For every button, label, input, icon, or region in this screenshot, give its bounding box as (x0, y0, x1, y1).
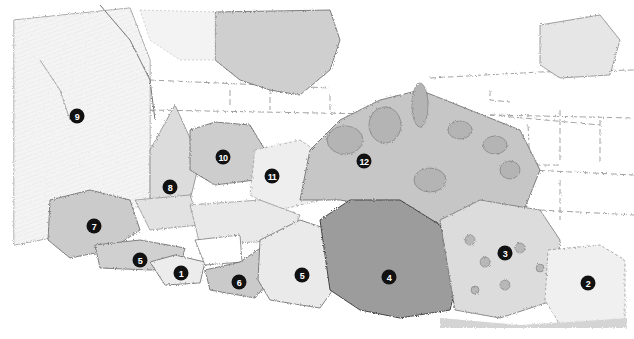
marker-3: 3 (498, 246, 513, 261)
marker-12: 12 (357, 154, 372, 169)
marker-6: 6 (232, 275, 247, 290)
marker-4: 4 (382, 270, 397, 285)
marker-5-left: 5 (133, 253, 148, 268)
garden-drawing (0, 0, 634, 339)
marker-8: 8 (163, 180, 178, 195)
garden-illustration: 1 2 3 4 5 5 6 7 8 9 10 11 12 (0, 0, 634, 339)
background-tree (215, 10, 340, 95)
marker-7: 7 (87, 219, 102, 234)
marker-2: 2 (581, 276, 596, 291)
marker-1: 1 (174, 266, 189, 281)
marker-9: 9 (70, 109, 85, 124)
background-bush-right (540, 15, 620, 78)
marker-5-right: 5 (295, 268, 310, 283)
marker-10: 10 (216, 150, 231, 165)
marker-11: 11 (265, 169, 280, 184)
